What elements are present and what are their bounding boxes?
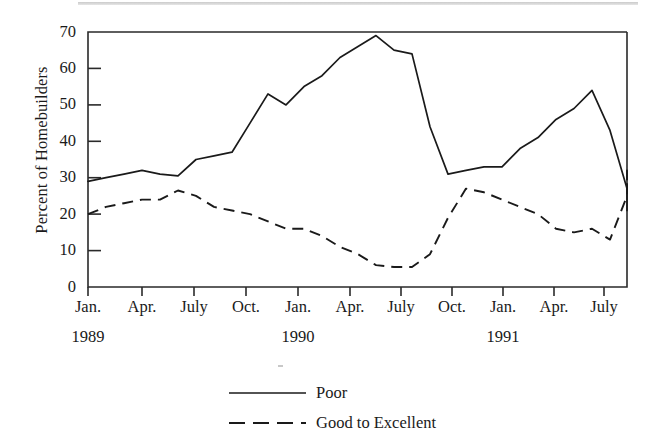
x-axis-ticks — [88, 287, 604, 296]
chart-plot-area — [0, 0, 657, 444]
y-axis-ticks — [88, 68, 101, 250]
chart-figure: Percent of Homebuilders 70 60 50 40 30 2… — [0, 0, 657, 444]
legend-label-good-to-excellent: Good to Excellent — [316, 413, 436, 433]
legend-label-poor: Poor — [316, 383, 347, 403]
axis-frame — [88, 32, 627, 287]
series-line-good-to-excellent — [88, 170, 627, 267]
series-line-poor — [88, 36, 627, 211]
legend — [229, 393, 306, 423]
